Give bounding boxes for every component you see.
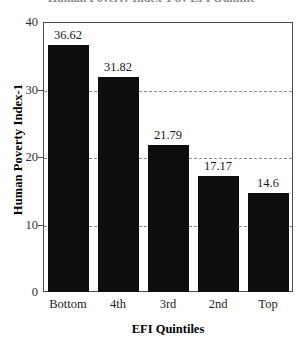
y-tick-label: 10 (0, 217, 38, 232)
bar[interactable] (148, 145, 189, 292)
y-tick-label: 30 (0, 82, 38, 97)
bar-value-label: 14.6 (257, 176, 279, 191)
bar-slot: 21.79 (148, 22, 189, 292)
x-tick-label: Bottom (49, 297, 87, 312)
bar-slot: 17.17 (198, 22, 239, 292)
bar[interactable] (248, 193, 289, 292)
bar-value-label: 31.82 (104, 60, 132, 75)
bar-value-label: 21.79 (154, 128, 182, 143)
y-tick-mark (38, 225, 43, 226)
y-tick-label: 20 (0, 150, 38, 165)
bar[interactable] (198, 176, 239, 292)
x-tick-label: 4th (110, 297, 126, 312)
y-tick-mark (38, 157, 43, 158)
y-tick-label: 40 (0, 15, 38, 30)
x-tick-label: 3rd (160, 297, 177, 312)
x-axis-title: EFI Quintiles (43, 322, 293, 337)
bar-chart: Human Poverty Index-1 by EFI Quintile Hu… (0, 0, 303, 343)
x-tick-label: 2nd (209, 297, 228, 312)
bar-slot: 31.82 (98, 22, 139, 292)
bar[interactable] (48, 45, 89, 292)
x-tick-label: Top (258, 297, 277, 312)
bar[interactable] (98, 77, 139, 292)
y-tick-mark (38, 90, 43, 91)
bar-value-label: 36.62 (54, 28, 82, 43)
y-tick-label: 0 (0, 285, 38, 300)
bar-value-label: 17.17 (204, 159, 232, 174)
bar-slot: 36.62 (48, 22, 89, 292)
bar-slot: 14.6 (248, 22, 289, 292)
chart-title: Human Poverty Index-1 by EFI Quintile (0, 0, 303, 2)
